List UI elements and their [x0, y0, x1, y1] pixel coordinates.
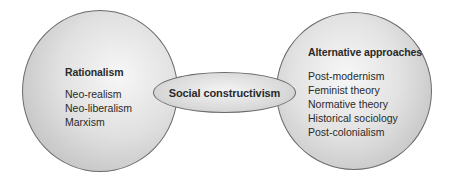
list-item: Post-modernism	[308, 69, 422, 83]
alternative-approaches-heading: Alternative approaches	[308, 46, 422, 58]
list-item: Post-colonialism	[308, 125, 422, 139]
alternative-approaches-group: Alternative approaches Post-modernism Fe…	[308, 46, 422, 139]
list-item: Normative theory	[308, 97, 422, 111]
list-item: Marxism	[65, 115, 132, 129]
rationalism-heading: Rationalism	[65, 66, 132, 78]
social-constructivism-ellipse: Social constructivism	[153, 72, 296, 113]
list-item: Feminist theory	[308, 83, 422, 97]
social-constructivism-heading: Social constructivism	[169, 87, 281, 99]
list-item: Neo-liberalism	[65, 101, 132, 115]
rationalism-group: Rationalism Neo-realism Neo-liberalism M…	[65, 66, 132, 129]
list-item: Historical sociology	[308, 111, 422, 125]
list-item: Neo-realism	[65, 87, 132, 101]
